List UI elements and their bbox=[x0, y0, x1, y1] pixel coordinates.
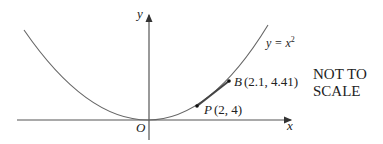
note-line-1: NOT TO bbox=[313, 66, 367, 83]
point-b bbox=[227, 79, 231, 83]
not-to-scale-note: NOT TO SCALE bbox=[313, 66, 367, 100]
y-axis-label: y bbox=[135, 6, 143, 21]
point-p bbox=[195, 104, 199, 108]
curve-label: y = x2 bbox=[265, 35, 295, 50]
point-b-label: B(2.1, 4.41) bbox=[234, 74, 298, 89]
origin-label: O bbox=[136, 120, 146, 135]
point-p-label: P(2, 4) bbox=[203, 102, 242, 117]
note-line-2: SCALE bbox=[313, 83, 367, 100]
x-axis-label: x bbox=[286, 118, 293, 133]
